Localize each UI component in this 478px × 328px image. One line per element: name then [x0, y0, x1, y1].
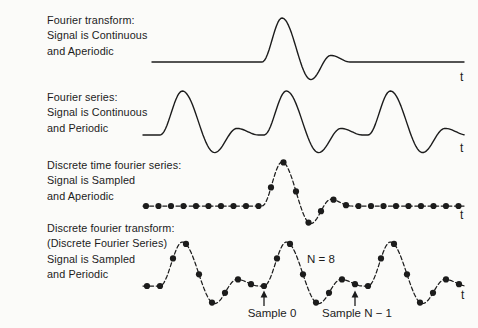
sample-dot — [365, 283, 371, 289]
sample-dot — [313, 300, 319, 306]
sample-dot — [339, 276, 345, 282]
sample-dot — [391, 241, 397, 247]
diagram-canvas: t t t t N = 8 Sample 0 Sample N − 1 — [0, 0, 478, 328]
sample-dot — [443, 276, 449, 282]
sample-dot — [393, 203, 399, 209]
sample-dot — [143, 203, 149, 209]
time-axis-label-row2: t — [460, 141, 464, 155]
sample-n-minus-1-arrow-icon — [352, 291, 359, 307]
sample-dot — [243, 203, 249, 209]
sample-dot — [180, 203, 186, 209]
waveform-3-curve — [143, 162, 464, 224]
sample-dot — [235, 276, 241, 282]
sample-n-minus-1-label: Sample N − 1 — [322, 307, 392, 319]
sample-dot — [209, 300, 215, 306]
sample-dot — [280, 159, 286, 165]
sample-dot — [430, 290, 436, 296]
sample-dot — [170, 255, 176, 261]
sample-dot — [196, 271, 202, 277]
sample-dot — [330, 197, 336, 203]
sample-dot — [405, 203, 411, 209]
sample-dot — [456, 281, 462, 287]
time-axis-label-row3: t — [460, 208, 464, 222]
sample-dot — [380, 203, 386, 209]
sample-dot — [352, 281, 358, 287]
sample-0-arrow-icon — [261, 291, 268, 307]
sample-dot — [183, 241, 189, 247]
sample-dot — [300, 271, 306, 277]
sample-dot — [222, 290, 228, 296]
sample-dot — [305, 220, 311, 226]
sample-dot — [343, 202, 349, 208]
sample-dot — [430, 203, 436, 209]
time-axis-label-row1: t — [460, 70, 464, 84]
sample-dot — [368, 203, 374, 209]
sample-dot — [318, 208, 324, 214]
sample-dot — [144, 283, 150, 289]
sample-dot — [168, 203, 174, 209]
sample-dot — [155, 203, 161, 209]
sample-dot — [255, 203, 261, 209]
sample-dot — [248, 281, 254, 287]
waveform-1-curve — [152, 18, 464, 80]
sample-dot — [274, 255, 280, 261]
sample-dot — [261, 283, 267, 289]
sample-0-label: Sample 0 — [248, 307, 297, 319]
sample-dot — [193, 203, 199, 209]
time-axis-label-row4: t — [461, 288, 465, 302]
sample-dot — [404, 271, 410, 277]
sample-dot — [326, 290, 332, 296]
sample-dot — [355, 203, 361, 209]
sample-dot — [417, 300, 423, 306]
fourier-types-figure: t t t t N = 8 Sample 0 Sample N − 1 Four… — [0, 0, 478, 328]
sample-dot — [205, 203, 211, 209]
n-equals-8-label: N = 8 — [307, 253, 335, 265]
sample-dot — [378, 255, 384, 261]
sample-dot — [230, 203, 236, 209]
sample-dot — [157, 283, 163, 289]
sample-dot — [443, 203, 449, 209]
waveform-2-curve — [143, 91, 464, 153]
sample-dot — [218, 203, 224, 209]
waveform-curves — [143, 18, 464, 306]
sample-dot — [418, 203, 424, 209]
sample-dot — [268, 184, 274, 190]
sample-dot — [287, 241, 293, 247]
sample-dot — [293, 188, 299, 194]
